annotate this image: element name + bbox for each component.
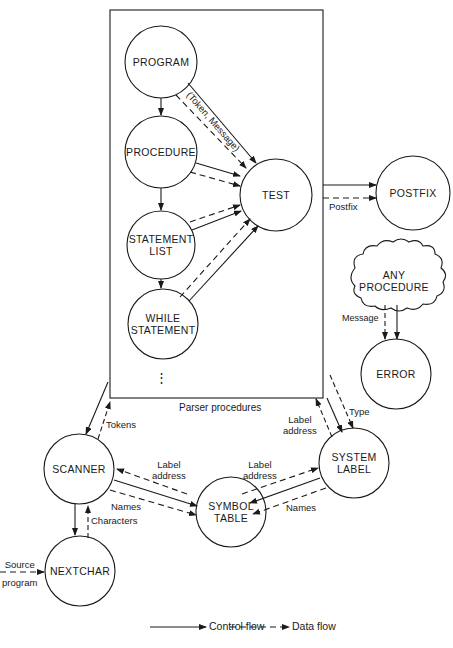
- label-any-procedure: ANY PROCEDURE: [359, 269, 429, 293]
- label-system-label-line2: LABEL: [332, 463, 377, 475]
- label-statement-list-line1: STATEMENT: [129, 233, 194, 245]
- label-any-procedure-line2: PROCEDURE: [359, 281, 429, 293]
- label-scanner: SCANNER: [52, 463, 105, 475]
- label-error: ERROR: [376, 368, 415, 380]
- label-program: PROGRAM: [133, 56, 189, 68]
- edge-label-message: Message: [342, 313, 379, 323]
- label-test: TEST: [262, 189, 290, 201]
- label-procedure: PROCEDURE: [126, 146, 196, 158]
- label-symbol-table: SYMBOL TABLE: [208, 500, 254, 524]
- parser-procedures-box: [110, 10, 323, 398]
- edge-label-names-system: Names: [286, 503, 316, 514]
- label-system-label: SYSTEM LABEL: [332, 451, 377, 475]
- label-postfix: POSTFIX: [389, 187, 436, 199]
- edge-label-label-address-box: Label address: [283, 415, 317, 437]
- edge-label-type: Type: [349, 407, 370, 418]
- edge-label-source-program: Source program: [2, 560, 37, 589]
- edge-label-label-address-system: Label address: [243, 460, 277, 482]
- label-while-statement-line2: STATEMENT: [131, 324, 196, 336]
- label-nextchar: NEXTCHAR: [50, 565, 110, 577]
- label-while-statement: WHILE STATEMENT: [131, 312, 196, 336]
- edge-label-line: Source: [2, 560, 37, 571]
- edge-label-postfix: Postfix: [329, 202, 358, 213]
- edge-label-names-scanner: Names: [111, 502, 141, 513]
- label-symbol-table-line2: TABLE: [208, 512, 254, 524]
- label-any-procedure-line1: ANY: [359, 269, 429, 281]
- label-while-statement-line1: WHILE: [131, 312, 196, 324]
- ellipsis-more-procedures: ⋮: [155, 371, 168, 386]
- diagram-canvas: [0, 0, 453, 648]
- edge-label-label-address-scanner: Label address: [152, 460, 186, 482]
- label-statement-list-line2: LIST: [129, 245, 194, 257]
- edge-label-characters: Characters: [91, 516, 137, 527]
- edge-label-line: address: [152, 471, 186, 482]
- label-statement-list: STATEMENT LIST: [129, 233, 194, 257]
- legend-control-flow-label: Control flow: [209, 620, 264, 632]
- label-system-label-line1: SYSTEM: [332, 451, 377, 463]
- edge-label-line: address: [283, 426, 317, 437]
- edge-label-tokens: Tokens: [106, 420, 136, 431]
- edge-label-line: address: [243, 471, 277, 482]
- label-symbol-table-line1: SYMBOL: [208, 500, 254, 512]
- edge-label-line: program: [2, 578, 37, 589]
- box-label-parser-procedures: Parser procedures: [179, 402, 261, 414]
- legend-data-flow-label: Data flow: [292, 620, 336, 632]
